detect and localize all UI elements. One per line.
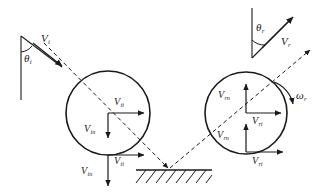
rebound-tangential-subscript: rt bbox=[258, 120, 262, 127]
incident-velocity-arrow bbox=[33, 43, 62, 66]
incident-velocity-subscript: i bbox=[48, 38, 50, 45]
rebound-normal-subscript: rn bbox=[224, 94, 230, 101]
angular-velocity-symbol: ω bbox=[296, 89, 304, 101]
incident-tangential-subscript: it bbox=[120, 101, 123, 108]
angular-velocity-subscript: r bbox=[304, 95, 307, 102]
incident-normal-subscript: in bbox=[90, 128, 95, 135]
rebound-velocity-label: Vr bbox=[281, 36, 290, 47]
rebound-tangential-label: Vrt bbox=[252, 116, 262, 126]
incident-tangential-contact-subscript: it bbox=[120, 160, 123, 167]
angular-velocity-label: ωr bbox=[296, 90, 306, 101]
diagram-vector-layer bbox=[0, 0, 334, 196]
rebound-tangential-contact-subscript: rt bbox=[258, 160, 262, 167]
incident-tangential-contact-label: Vit bbox=[114, 156, 124, 166]
rebound-velocity-symbol: V bbox=[281, 35, 288, 47]
rebound-angle-label: θr bbox=[256, 22, 264, 33]
incident-angle-label: θi bbox=[24, 53, 31, 64]
incident-velocity-label: Vi bbox=[41, 33, 50, 44]
rebound-angle-symbol: θ bbox=[256, 21, 261, 33]
incident-normal-label: Vin bbox=[84, 124, 95, 134]
incident-velocity-symbol: V bbox=[41, 32, 48, 44]
rebound-normal-contact-subscript: rn bbox=[223, 134, 229, 141]
incident-angle-symbol: θ bbox=[24, 52, 29, 64]
incident-normal-contact-label: Vin bbox=[81, 166, 92, 176]
rebound-trajectory-dashed bbox=[170, 50, 310, 168]
rebound-angle-subscript: r bbox=[262, 27, 265, 34]
rebound-tangential-contact-label: Vrt bbox=[252, 156, 262, 166]
rebound-normal-label: Vrn bbox=[218, 90, 230, 100]
incident-tangential-label: Vit bbox=[114, 97, 124, 107]
ground-hatching bbox=[136, 170, 212, 183]
rebound-normal-contact-label: Vrn bbox=[217, 130, 229, 140]
incident-angle-subscript: i bbox=[30, 58, 32, 65]
rebound-velocity-subscript: r bbox=[288, 41, 291, 48]
incident-normal-contact-subscript: in bbox=[87, 170, 92, 177]
physics-diagram-canvas: θi Vi Vit Vin Vit Vin θr Vr Vrn Vrt Vrn … bbox=[0, 0, 334, 196]
rebound-angle-arc bbox=[252, 40, 265, 45]
